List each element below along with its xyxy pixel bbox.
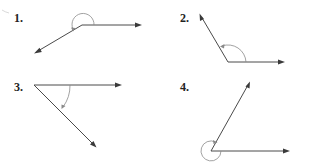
angle-panel-2	[200, 14, 286, 65]
arrowhead-icon	[135, 23, 142, 28]
arc-arrowhead-icon	[62, 105, 66, 110]
arrowhead-icon	[34, 48, 42, 54]
arrowhead-icon	[278, 60, 285, 65]
angle-arc	[63, 85, 70, 107]
ray-upper-left	[202, 17, 229, 62]
angle-arc	[222, 45, 246, 62]
ray-lower-left	[38, 25, 82, 51]
angle-panel-4	[201, 82, 290, 161]
ray-lower-right	[34, 85, 94, 145]
angle-diagrams	[0, 0, 312, 163]
arrowhead-icon	[115, 83, 122, 88]
angle-panel-3	[34, 83, 122, 148]
corner-artifact	[2, 10, 9, 13]
angle-arc	[72, 13, 94, 29]
arc-arrowhead-icon	[220, 44, 225, 49]
arrowhead-icon	[283, 149, 290, 154]
ray-upper-right	[211, 85, 248, 151]
angle-panel-1	[34, 13, 142, 53]
